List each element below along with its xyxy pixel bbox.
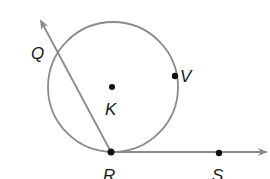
geometry-diagram: Q K V R S [0, 0, 270, 179]
ray-rq [41, 21, 111, 152]
label-k: K [105, 100, 117, 119]
point-s [216, 150, 222, 156]
point-k [109, 84, 115, 90]
label-v: V [180, 67, 193, 86]
label-q: Q [31, 44, 44, 63]
point-r [108, 149, 115, 156]
label-r: R [103, 166, 115, 179]
point-v [172, 73, 178, 79]
label-s: S [212, 166, 224, 179]
